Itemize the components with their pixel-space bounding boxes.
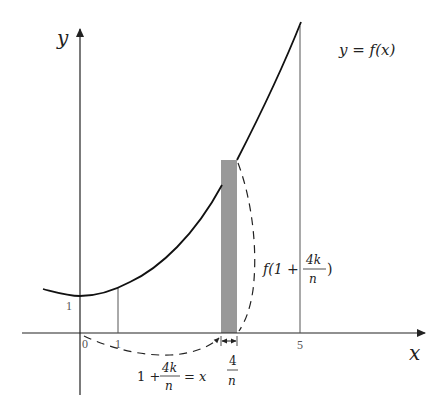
sample-point-numerator: 4k bbox=[161, 361, 177, 375]
tick-x-5: 5 bbox=[297, 338, 303, 352]
sample-point-rhs: = x bbox=[184, 369, 207, 384]
tick-x-1: 1 bbox=[115, 337, 121, 351]
height-suffix: ) bbox=[327, 261, 332, 277]
width-numerator: 4 bbox=[229, 354, 237, 368]
height-prefix: f(1 + bbox=[262, 261, 299, 277]
dashed-brace-height bbox=[238, 163, 255, 331]
curve-label: y = f(x) bbox=[338, 41, 395, 59]
height-denominator: n bbox=[309, 272, 317, 286]
x-axis-label: x bbox=[409, 341, 420, 365]
height-numerator: 4k bbox=[305, 253, 321, 267]
sample-point-lhs: 1 + bbox=[137, 369, 160, 384]
sample-point-denominator: n bbox=[165, 379, 173, 393]
height-annotation: f(1 + 4k n ) bbox=[262, 253, 332, 286]
riemann-sum-diagram: y x y = f(x) 0 1 5 1 1 + 4k n = x 4 n f(… bbox=[0, 0, 445, 407]
width-denominator: n bbox=[228, 374, 236, 388]
dashed-brace-bottom bbox=[84, 336, 219, 355]
riemann-rectangle bbox=[221, 160, 237, 333]
origin-label: 0 bbox=[82, 337, 88, 351]
y-axis-label: y bbox=[56, 26, 69, 50]
function-curve bbox=[43, 22, 301, 296]
width-annotation: 4 n bbox=[227, 354, 238, 388]
sample-point-annotation: 1 + 4k n = x bbox=[137, 361, 207, 393]
tick-y-1: 1 bbox=[66, 299, 72, 313]
